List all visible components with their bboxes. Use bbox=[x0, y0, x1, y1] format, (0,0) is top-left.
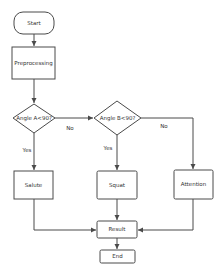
node-end-label: End bbox=[112, 253, 122, 259]
edge-salute-result bbox=[34, 199, 96, 230]
node-salute[interactable]: Salute bbox=[14, 171, 53, 199]
node-squat-label: Squat bbox=[109, 182, 126, 189]
node-end[interactable]: End bbox=[100, 250, 135, 263]
edge-attention-result bbox=[138, 199, 193, 230]
node-result-label: Result bbox=[109, 226, 127, 232]
node-preprocessing[interactable]: Preprocessing bbox=[12, 47, 55, 79]
node-attention[interactable]: Attention bbox=[174, 170, 213, 199]
node-result[interactable]: Result bbox=[97, 221, 137, 238]
node-decision-b[interactable]: Angle B<90? bbox=[94, 101, 141, 135]
node-squat[interactable]: Squat bbox=[97, 171, 137, 199]
node-decision-a-label: Angle A<90? bbox=[16, 115, 52, 122]
node-attention-label: Attention bbox=[181, 181, 207, 187]
edge-label-yes-b: Yes bbox=[103, 145, 113, 151]
flowchart: No Yes Yes No Start Preprocessing Angle … bbox=[0, 0, 224, 275]
node-decision-a[interactable]: Angle A<90? bbox=[13, 104, 55, 133]
edge-label-no-b: No bbox=[160, 123, 168, 129]
edge-label-yes-a: Yes bbox=[22, 147, 32, 153]
node-preprocessing-label: Preprocessing bbox=[14, 60, 52, 67]
edge-label-no-a: No bbox=[66, 125, 74, 131]
node-salute-label: Salute bbox=[25, 182, 43, 188]
node-start[interactable]: Start bbox=[14, 12, 54, 34]
node-start-label: Start bbox=[27, 20, 41, 26]
node-decision-b-label: Angle B<90? bbox=[100, 115, 136, 122]
